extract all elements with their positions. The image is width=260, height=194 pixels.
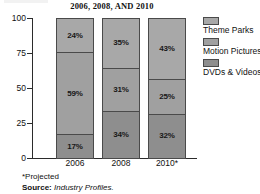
x-axis-label-2010: 2010* [145,159,189,168]
source-label: Source: [22,183,52,192]
stacked-bar-2008[interactable]: 35% 31% 34% [102,18,140,159]
footnote-projected: *Projected [22,172,202,182]
legend-swatch-icon [203,38,219,46]
x-axis-labels: 2006 2008 2010* [0,159,200,171]
bar-segment-theme-parks[interactable]: 35% [103,19,139,68]
bars-layer: 24% 59% 17% 35% 31% 34% 43% [0,14,200,159]
x-axis-label-2008: 2008 [99,159,143,168]
bar-segment-theme-parks[interactable]: 43% [149,19,185,79]
legend-item-label: Motion Pictures [203,47,260,57]
legend-item-label: DVDs & Videos [203,68,260,78]
stacked-bar-2006[interactable]: 24% 59% 17% [56,18,94,159]
bar-segment-motion-pictures[interactable]: 59% [57,52,93,134]
legend-item-dvds-and-videos[interactable]: DVDs & Videos [203,59,260,78]
chart-legend: Theme Parks Motion Pictures DVDs & Video… [203,17,260,79]
chart-title: 2006, 2008, AND 2010 [42,1,182,11]
segment-value-label: 43% [159,45,175,53]
segment-value-label: 32% [159,132,175,140]
legend-swatch-icon [203,59,219,67]
segment-value-label: 35% [113,39,129,47]
stacked-bar-2010[interactable]: 43% 25% 32% [148,18,186,159]
segment-value-label: 31% [113,86,129,94]
bar-segment-dvds-and-videos[interactable]: 34% [103,111,139,158]
source-value: Industry Profiles. [54,183,114,192]
bar-segment-dvds-and-videos[interactable]: 32% [149,114,185,158]
segment-value-label: 24% [67,32,83,40]
legend-swatch-icon [203,17,219,25]
segment-value-label: 59% [67,90,83,98]
bar-segment-motion-pictures[interactable]: 25% [149,79,185,114]
source-line: Source: Industry Profiles. [22,183,202,193]
segment-value-label: 17% [67,143,83,151]
segment-value-label: 25% [159,93,175,101]
legend-item-motion-pictures[interactable]: Motion Pictures [203,38,260,57]
bar-segment-motion-pictures[interactable]: 31% [103,68,139,111]
x-axis-label-2006: 2006 [53,159,97,168]
bar-segment-theme-parks[interactable]: 24% [57,19,93,52]
plot-area: 100 75 50 25 0 24% 59% 17% 35% 31% [0,14,200,159]
footnotes: *Projected Source: Industry Profiles. [22,172,202,193]
bar-segment-dvds-and-videos[interactable]: 17% [57,134,93,158]
segment-value-label: 34% [113,131,129,139]
legend-item-label: Theme Parks [203,26,260,36]
legend-item-theme-parks[interactable]: Theme Parks [203,17,260,36]
